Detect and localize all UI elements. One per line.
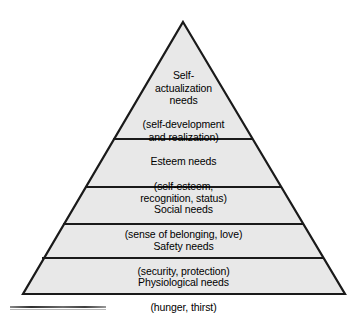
scan-artifact-bar-lower: [10, 309, 106, 310]
scan-artifact-bar-upper: [10, 306, 106, 308]
pyramid-shape: [0, 0, 364, 314]
pyramid-outline: [23, 22, 345, 294]
maslow-pyramid-diagram: Self- actualization needs (self-developm…: [0, 0, 364, 314]
